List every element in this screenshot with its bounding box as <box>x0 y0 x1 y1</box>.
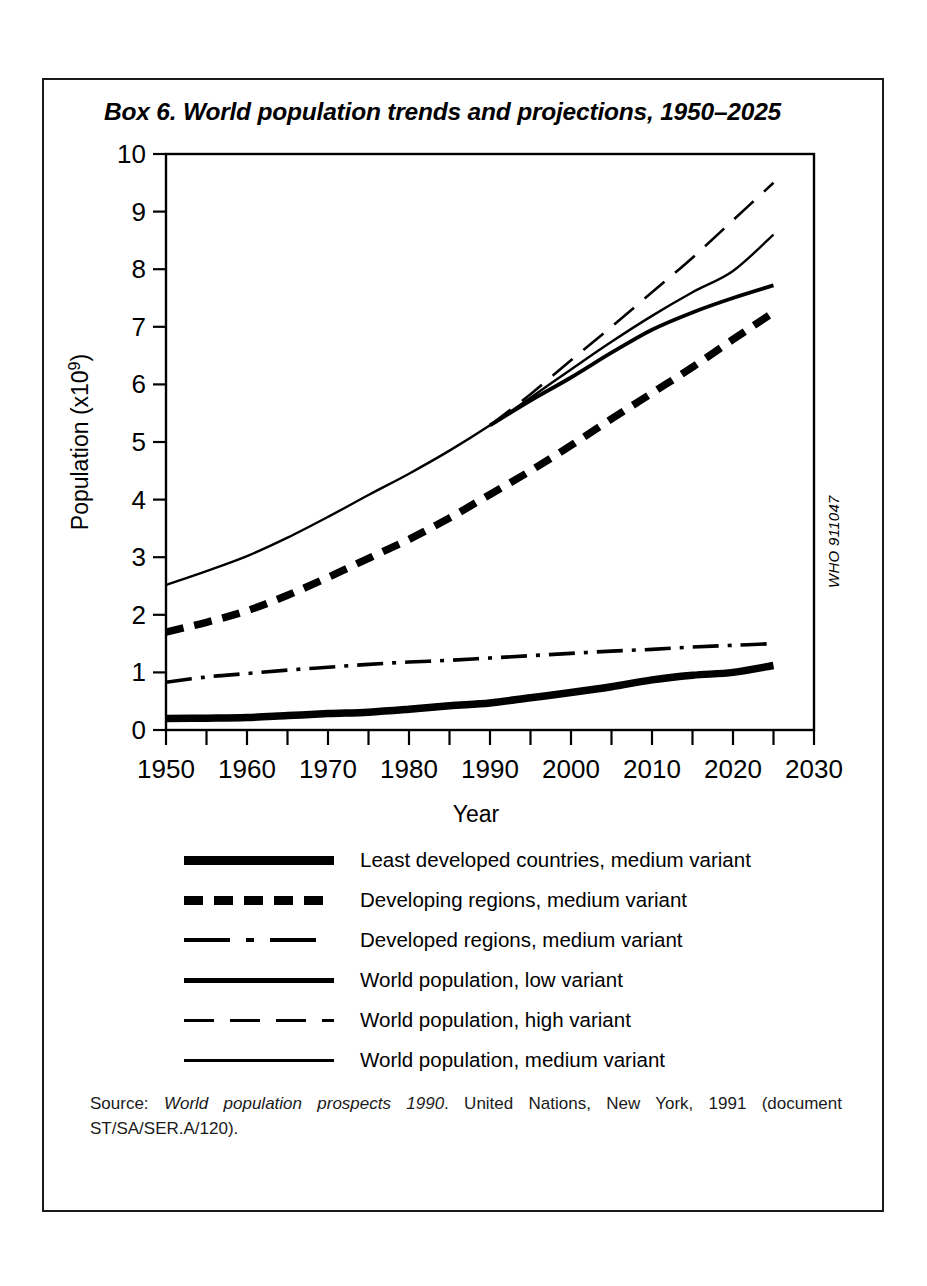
svg-text:3: 3 <box>132 542 146 572</box>
source-prefix: Source: <box>90 1094 164 1113</box>
svg-text:2010: 2010 <box>623 754 681 784</box>
series-line <box>166 235 774 585</box>
legend-swatch-world_medium <box>184 1059 334 1062</box>
svg-text:9: 9 <box>132 197 146 227</box>
svg-text:6: 6 <box>132 369 146 399</box>
chart-series-lines <box>166 183 774 719</box>
legend-item: Developing regions, medium variant <box>44 880 886 920</box>
legend-swatch-least_developed <box>184 856 334 865</box>
series-line <box>490 285 774 425</box>
axis-ticks <box>153 154 814 745</box>
box-title: Box 6. World population trends and proje… <box>104 98 781 126</box>
svg-text:1980: 1980 <box>380 754 438 784</box>
svg-text:8: 8 <box>132 254 146 284</box>
source-title-italic: World population prospects 1990 <box>164 1094 444 1113</box>
series-line <box>166 312 774 632</box>
legend-label: World population, medium variant <box>360 1048 665 1072</box>
y-axis-tick-labels: 012345678910 <box>117 139 146 745</box>
legend-label: Least developed countries, medium varian… <box>360 848 751 872</box>
svg-text:10: 10 <box>117 139 146 169</box>
y-axis-title: Population (x109) <box>66 354 94 530</box>
svg-text:5: 5 <box>132 427 146 457</box>
legend-line-sample <box>184 938 334 942</box>
series-line <box>166 665 774 718</box>
x-axis-title: Year <box>453 801 500 827</box>
svg-text:4: 4 <box>132 485 146 515</box>
svg-text:2: 2 <box>132 600 146 630</box>
legend-line-sample <box>184 1019 334 1022</box>
legend-item: Least developed countries, medium varian… <box>44 840 886 880</box>
chart-figure: 195019601970198019902000201020202030 012… <box>44 132 886 862</box>
svg-text:1950: 1950 <box>137 754 195 784</box>
legend-item: World population, high variant <box>44 1000 886 1040</box>
legend-item: Developed regions, medium variant <box>44 920 886 960</box>
svg-text:7: 7 <box>132 312 146 342</box>
legend-line-sample <box>184 1059 334 1062</box>
svg-text:1960: 1960 <box>218 754 276 784</box>
x-axis-tick-labels: 195019601970198019902000201020202030 <box>137 754 843 784</box>
svg-text:1990: 1990 <box>461 754 519 784</box>
legend-line-sample <box>184 978 334 983</box>
legend-item: World population, low variant <box>44 960 886 1000</box>
source-note: Source: World population prospects 1990.… <box>90 1092 842 1141</box>
legend-line-sample <box>184 856 334 865</box>
box-container: Box 6. World population trends and proje… <box>42 78 884 1212</box>
legend-swatch-world_low <box>184 978 334 983</box>
plot-frame <box>166 154 814 730</box>
legend-swatch-world_high <box>184 1019 334 1022</box>
chart-legend: Least developed countries, medium varian… <box>44 840 886 1080</box>
series-line <box>490 183 774 425</box>
legend-line-sample <box>184 896 334 905</box>
svg-text:2020: 2020 <box>704 754 762 784</box>
legend-item: World population, medium variant <box>44 1040 886 1080</box>
svg-text:1: 1 <box>132 657 146 687</box>
svg-text:2000: 2000 <box>542 754 600 784</box>
svg-text:2030: 2030 <box>785 754 843 784</box>
svg-text:Population (x109): Population (x109) <box>66 354 94 530</box>
svg-text:0: 0 <box>132 715 146 745</box>
legend-swatch-developed <box>184 938 334 942</box>
legend-label: Developing regions, medium variant <box>360 888 687 912</box>
population-line-chart: 195019601970198019902000201020202030 012… <box>44 132 886 862</box>
svg-text:1970: 1970 <box>299 754 357 784</box>
who-reference-code: WHO 911047 <box>825 495 842 588</box>
legend-label: World population, high variant <box>360 1008 631 1032</box>
legend-label: World population, low variant <box>360 968 623 992</box>
legend-swatch-developing <box>184 896 334 905</box>
legend-label: Developed regions, medium variant <box>360 928 682 952</box>
